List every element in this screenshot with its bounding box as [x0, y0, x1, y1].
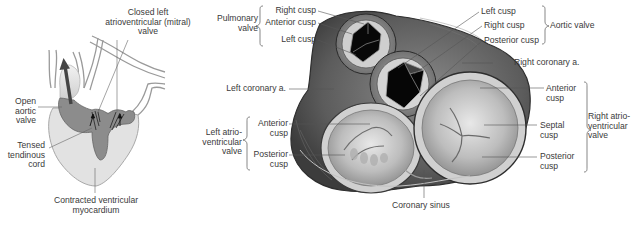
label-aortic-left-cusp: Left cusp: [481, 7, 516, 17]
label-tensed-tendinous-cord: Tensed tendinous cord: [0, 141, 45, 170]
label-line: cusp: [540, 131, 564, 141]
label-pulmonary-anterior-cusp: Anterior cusp: [258, 18, 316, 28]
label-line: valve: [210, 24, 258, 34]
label-pulmonary-valve: Pulmonary valve: [210, 14, 258, 33]
label-right-av-valve: Right atrio- ventricular valve: [588, 112, 630, 141]
label-pulmonary-right-cusp: Right cusp: [262, 6, 316, 16]
label-right-av-septal-cusp: Septal cusp: [540, 121, 564, 140]
label-line: cord: [0, 160, 45, 170]
label-right-av-posterior-cusp: Posterior cusp: [540, 152, 574, 171]
label-line: myocardium: [40, 206, 152, 216]
label-line: valve: [0, 116, 36, 126]
label-left-av-posterior-cusp: Posterior cusp: [248, 150, 288, 169]
label-line: cusp: [248, 160, 288, 170]
label-left-coronary-artery: Left coronary a.: [200, 84, 286, 94]
label-right-av-anterior-cusp: Anterior cusp: [546, 84, 576, 103]
label-left-av-valve: Left atrio- ventricular valve: [200, 128, 242, 157]
label-line: cusp: [540, 162, 574, 172]
label-contracted-myocardium: Contracted ventricular myocardium: [40, 196, 152, 215]
left-heart-schematic: [49, 36, 165, 186]
label-coronary-sinus: Coronary sinus: [392, 201, 450, 211]
label-pulmonary-left-cusp: Left cusp: [262, 35, 316, 45]
label-aortic-right-cusp: Right cusp: [484, 21, 525, 31]
tricuspid-valve-graphic: [414, 72, 526, 184]
mitral-valve-graphic: [321, 103, 421, 193]
label-line: valve: [588, 131, 630, 141]
label-line: cusp: [248, 129, 288, 139]
label-closed-mitral-valve: Closed left atrioventricular (mitral) va…: [93, 8, 203, 37]
label-open-aortic-valve: Open aortic valve: [0, 97, 36, 126]
label-line: valve: [93, 27, 203, 37]
label-line: cusp: [546, 94, 576, 104]
label-line: valve: [200, 147, 242, 157]
label-aortic-posterior-cusp: Posterior cusp: [484, 36, 539, 46]
label-left-av-anterior-cusp: Anterior cusp: [248, 119, 288, 138]
label-right-coronary-artery: Right coronary a.: [514, 58, 579, 68]
label-aortic-valve: Aortic valve: [550, 21, 594, 31]
